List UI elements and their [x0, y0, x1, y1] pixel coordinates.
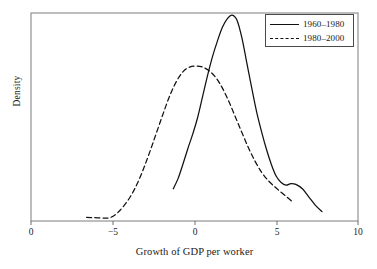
legend-label-1980-2000: 1980–2000: [303, 33, 344, 43]
x-tick-label: 0: [16, 227, 46, 237]
legend-item-1960-1980: 1960–1980: [270, 17, 344, 31]
legend-swatch-solid-icon: [270, 20, 299, 28]
chart-legend: 1960–1980 1980–2000: [265, 14, 354, 47]
density-plot-figure: Density Growth of GDP per worker 0−50510…: [0, 0, 377, 269]
legend-label-1960-1980: 1960–1980: [303, 19, 344, 29]
legend-item-1980-2000: 1980–2000: [270, 31, 344, 45]
x-tick-label: 10: [343, 227, 373, 237]
x-tick-label: 5: [262, 227, 292, 237]
x-axis-label: Growth of GDP per worker: [31, 246, 358, 257]
x-tick-label: 0: [180, 227, 210, 237]
x-tick-label: −5: [98, 227, 128, 237]
x-axis-tick-marks: [31, 221, 358, 225]
legend-swatch-dashed-icon: [270, 34, 299, 42]
y-axis-label: Density: [12, 56, 22, 126]
